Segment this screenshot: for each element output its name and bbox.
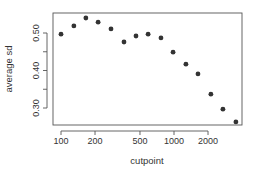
- y-axis: 0.300.400.50: [31, 24, 47, 117]
- data-point: [184, 62, 189, 67]
- x-tick-label: 2000: [198, 136, 218, 146]
- x-tick-label: 100: [53, 136, 68, 146]
- data-point: [71, 23, 76, 28]
- x-axis-title: cutpoint: [130, 155, 164, 166]
- y-tick-label: 0.30: [31, 99, 41, 117]
- data-point: [171, 50, 176, 55]
- data-point: [59, 32, 64, 37]
- data-point: [109, 26, 114, 31]
- data-point: [83, 16, 88, 21]
- data-point: [134, 34, 139, 39]
- x-tick-label: 200: [88, 136, 103, 146]
- data-point: [159, 35, 164, 40]
- y-tick-label: 0.40: [31, 62, 41, 80]
- data-point: [221, 107, 226, 112]
- y-tick-label: 0.50: [31, 24, 41, 42]
- data-points: [59, 16, 239, 125]
- y-axis-title: average sd: [3, 45, 14, 92]
- plot-frame: [53, 13, 242, 125]
- data-point: [233, 119, 238, 124]
- data-point: [208, 92, 213, 97]
- data-point: [122, 40, 127, 45]
- data-point: [146, 32, 151, 37]
- data-point: [196, 71, 201, 76]
- x-tick-label: 1000: [164, 136, 184, 146]
- x-axis: 10020050010002000: [53, 131, 218, 146]
- data-point: [96, 20, 101, 25]
- scatter-chart: 0.300.400.50 10020050010002000 cutpoint …: [0, 0, 257, 178]
- x-tick-label: 500: [132, 136, 147, 146]
